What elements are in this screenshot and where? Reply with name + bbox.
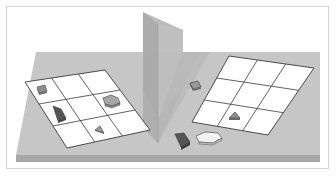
mirror-scene — [0, 0, 336, 176]
